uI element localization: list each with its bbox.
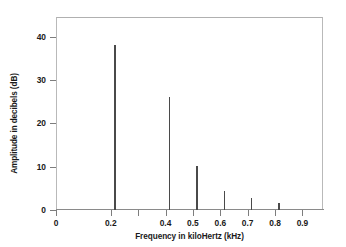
y-tick-mark xyxy=(50,167,56,168)
spike-bar xyxy=(196,166,197,210)
x-axis-line xyxy=(56,209,324,210)
y-tick-label: 20 xyxy=(22,118,46,128)
spike-bar xyxy=(278,203,279,210)
x-tick-mark xyxy=(248,210,249,216)
x-tick-mark xyxy=(302,210,303,216)
x-tick-mark xyxy=(193,210,194,216)
y-tick-label: 0 xyxy=(22,205,46,215)
spectrum-chart: Amplitude in decibels (dB) 010203040 00.… xyxy=(0,0,346,247)
plot-area xyxy=(56,17,323,210)
x-tick-label: 0 xyxy=(39,218,73,228)
spike-bar xyxy=(169,97,170,210)
x-tick-mark xyxy=(220,210,221,216)
x-tick-mark xyxy=(275,210,276,216)
y-tick-mark xyxy=(50,37,56,38)
x-tick-label: 0.9 xyxy=(285,218,319,228)
x-axis-title: Frequency in kiloHertz (kHz) xyxy=(56,232,323,241)
x-tick-mark xyxy=(56,210,57,216)
x-tick-mark xyxy=(166,210,167,216)
spike-bar xyxy=(224,191,225,210)
y-tick-label: 10 xyxy=(22,162,46,172)
x-tick-mark xyxy=(138,210,139,216)
y-tick-label: 40 xyxy=(22,32,46,42)
y-tick-label: 30 xyxy=(22,75,46,85)
x-tick-label: 0.2 xyxy=(94,218,128,228)
y-tick-mark xyxy=(50,123,56,124)
y-tick-mark xyxy=(50,80,56,81)
x-tick-mark xyxy=(111,210,112,216)
spike-bar xyxy=(251,198,252,210)
spike-bar xyxy=(114,45,115,210)
